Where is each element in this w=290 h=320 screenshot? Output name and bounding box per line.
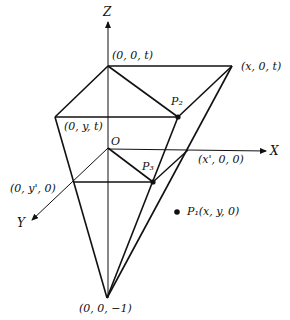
label-top-x: (x, 0, t) <box>241 61 281 72</box>
label-apex: (0, 0, −1) <box>79 303 132 314</box>
projection-diagram: Z X Y (0, 0, t) (x, 0, t) (0, y, t) O (x… <box>0 0 290 320</box>
label-p1: P₁(x, y, 0) <box>187 206 239 217</box>
xt-p2-edge <box>178 66 232 117</box>
y-axis-label: Y <box>17 217 25 229</box>
label-top-origin: (0, 0, t) <box>112 50 153 61</box>
label-p3: P₃ <box>142 161 154 172</box>
label-x-prime: (x', 0, 0) <box>198 154 244 165</box>
top-p2-edge <box>108 66 178 117</box>
label-y-prime: (0, y', 0) <box>10 183 56 194</box>
ray-yt-apex <box>55 117 107 298</box>
z-axis-label: Z <box>103 6 111 18</box>
label-p2: P₂ <box>171 96 183 107</box>
top-y-edge <box>55 66 108 117</box>
label-origin: O <box>111 136 120 147</box>
label-top-y: (0, y, t) <box>64 121 103 132</box>
p3-point <box>150 179 155 184</box>
p1-point <box>174 209 180 215</box>
p2-point <box>175 114 180 119</box>
x-axis-label: X <box>270 145 279 157</box>
